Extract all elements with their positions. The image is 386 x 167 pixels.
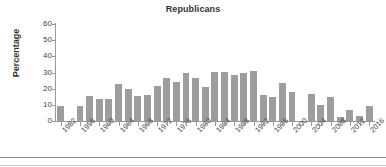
bar-1952 (57, 106, 64, 121)
x-tick-mark-1994 (263, 122, 264, 126)
x-tick-mark-2006 (321, 122, 322, 126)
bar-1990 (240, 73, 247, 121)
bar-1960 (96, 99, 103, 121)
bar-1986 (221, 72, 228, 121)
y-tick-50: 50 (34, 36, 52, 44)
x-tick-mark-1986 (225, 122, 226, 126)
y-tick-30: 30 (34, 69, 52, 77)
bar-1996 (269, 97, 276, 121)
bar-1984 (211, 72, 218, 121)
y-tick-10: 10 (34, 101, 52, 109)
bar-1992 (250, 71, 257, 121)
bar-1956 (77, 106, 84, 121)
y-tick-label: 50 (36, 36, 52, 44)
x-tick-mark-2010 (340, 122, 341, 126)
y-tick-40: 40 (34, 52, 52, 60)
bar-1976 (173, 82, 180, 121)
x-tick-mark-2014 (360, 122, 361, 126)
y-tick-label: 60 (36, 20, 52, 28)
bar-1968 (134, 96, 141, 121)
y-axis-label: Percentage (11, 13, 21, 93)
y-tick-label: 10 (36, 101, 52, 109)
bar-1974 (163, 78, 170, 121)
x-tick-mark-1954 (70, 122, 71, 126)
y-tick-0: 0 (34, 117, 52, 125)
x-tick-mark-1958 (90, 122, 91, 126)
bar-1980 (192, 78, 199, 121)
x-tick-mark-1982 (205, 122, 206, 126)
x-tick-mark-1990 (244, 122, 245, 126)
y-tick-label: 30 (36, 69, 52, 77)
bar-1964 (115, 84, 122, 121)
x-tick-mark-1970 (148, 122, 149, 126)
bar-1972 (154, 86, 161, 121)
bar-1988 (231, 75, 238, 121)
chart-title: Republicans (0, 4, 386, 14)
bar-2004 (308, 94, 315, 121)
bar-2016 (366, 106, 373, 121)
y-tick-label: 20 (36, 85, 52, 93)
x-tick-mark-1974 (167, 122, 168, 126)
y-tick-20: 20 (34, 85, 52, 93)
x-tick-mark-1978 (186, 122, 187, 126)
footer-divider-secondary (0, 165, 386, 166)
x-tick-mark-1962 (109, 122, 110, 126)
bar-2012 (346, 110, 353, 121)
y-tick-label: 0 (36, 117, 52, 125)
bar-1978 (183, 73, 190, 122)
plot-area (56, 24, 374, 121)
y-tick-60: 60 (34, 20, 52, 28)
bar-1998 (279, 83, 286, 121)
x-tick-mark-1998 (282, 122, 283, 126)
x-tick-mark-1966 (128, 122, 129, 126)
bar-2008 (327, 97, 334, 121)
bar-2000 (289, 92, 296, 121)
chart-figure: Republicans Percentage 6050403020100 195… (0, 0, 386, 167)
footer-divider (0, 157, 386, 158)
x-tick-mark-2002 (302, 122, 303, 126)
y-tick-label: 40 (36, 52, 52, 60)
